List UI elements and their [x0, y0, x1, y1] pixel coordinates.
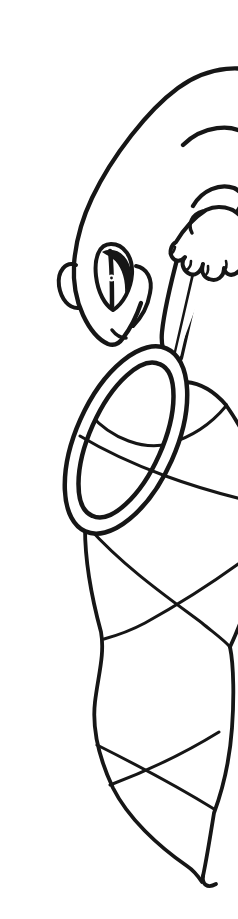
mesh-hammock [90, 406, 226, 446]
gecko-eye [96, 244, 133, 310]
bag-right-edge-lower [203, 647, 233, 876]
mesh-ring-to-junction [89, 528, 230, 647]
bag-left-edge [85, 528, 202, 882]
gecko-figure [59, 68, 238, 354]
gecko-hand [170, 207, 238, 280]
coloring-page: Gecko leaning from the page edge holding… [40, 16, 238, 919]
gecko-neck-line [162, 252, 179, 354]
bag-rim-arc [186, 382, 226, 405]
gecko-arm [183, 128, 238, 217]
bag-tip-hook [203, 876, 216, 886]
eye-center-dot [110, 277, 113, 280]
bag-right-edge [226, 405, 238, 647]
gecko-net-illustration [40, 16, 238, 919]
mesh-lower-cross-b [97, 745, 214, 809]
